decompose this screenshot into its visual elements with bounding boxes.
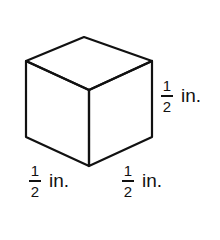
width-fraction: 1 2 (29, 163, 41, 199)
fraction-bar (161, 95, 173, 97)
numerator: 1 (163, 78, 171, 93)
denominator: 2 (124, 184, 132, 199)
height-label: 1 2 in. (161, 78, 201, 114)
numerator: 1 (124, 163, 132, 178)
denominator: 2 (31, 184, 39, 199)
height-fraction: 1 2 (161, 78, 173, 114)
unit: in. (49, 170, 69, 192)
fraction-bar (29, 180, 41, 182)
fraction-bar (122, 180, 134, 182)
unit: in. (142, 170, 162, 192)
unit: in. (181, 85, 201, 107)
cube-right-face (89, 61, 152, 166)
denominator: 2 (163, 99, 171, 114)
numerator: 1 (31, 163, 39, 178)
depth-fraction: 1 2 (122, 163, 134, 199)
depth-label: 1 2 in. (122, 163, 162, 199)
cube-top-face (26, 37, 152, 90)
width-label: 1 2 in. (29, 163, 69, 199)
cube-left-face (26, 61, 89, 166)
